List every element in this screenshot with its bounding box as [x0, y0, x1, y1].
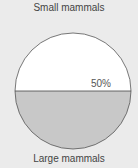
large-mammals-slice	[15, 91, 131, 149]
pie-chart: 50%	[0, 0, 138, 168]
percent-label: 50%	[91, 78, 111, 89]
large-mammals-label: Large mammals	[0, 153, 138, 164]
small-mammals-slice	[15, 33, 131, 91]
